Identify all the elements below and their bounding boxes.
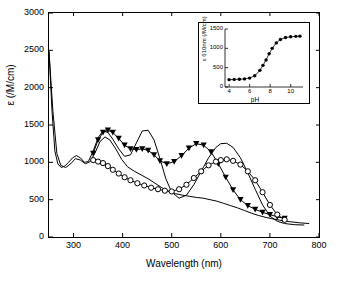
data-point-marker bbox=[282, 217, 287, 222]
series-line bbox=[93, 130, 284, 218]
inset-x-tick-label: 6 bbox=[244, 88, 256, 94]
data-point-marker bbox=[164, 161, 170, 167]
data-point-marker bbox=[95, 159, 100, 164]
data-point-marker bbox=[245, 203, 251, 209]
data-point-marker bbox=[253, 178, 258, 183]
inset-data-point-marker bbox=[294, 35, 297, 38]
data-point-marker bbox=[105, 163, 110, 168]
data-point-marker bbox=[162, 188, 167, 193]
inset-data-point-marker bbox=[284, 36, 287, 39]
inset-data-point-marker bbox=[253, 74, 256, 77]
data-point-marker bbox=[122, 143, 128, 149]
data-point-marker bbox=[122, 175, 127, 180]
y-tick-label: 2000 bbox=[0, 82, 44, 92]
inset-y-tick-label: 500 bbox=[205, 64, 223, 70]
data-point-marker bbox=[267, 202, 272, 207]
x-tick-label: 400 bbox=[109, 240, 137, 250]
inset-x-tick-label: 4 bbox=[223, 88, 235, 94]
data-point-marker bbox=[218, 157, 223, 162]
data-point-marker bbox=[206, 163, 211, 168]
data-point-marker bbox=[224, 157, 229, 162]
inset-series-line bbox=[229, 36, 300, 80]
data-point-marker bbox=[223, 175, 229, 181]
data-point-marker bbox=[191, 175, 196, 180]
inset-y-tick-label: 0 bbox=[205, 83, 223, 89]
inset-x-tick-label: 8 bbox=[264, 88, 276, 94]
y-tick-label: 0 bbox=[0, 231, 44, 241]
inset-data-point-marker bbox=[271, 47, 274, 50]
y-axis-label: ε (/M/cm) bbox=[5, 90, 16, 106]
inset-data-point-marker bbox=[275, 41, 278, 44]
inset-x-tick-label: 10 bbox=[285, 88, 297, 94]
inset-y-tick-label: 1500 bbox=[205, 25, 223, 31]
chart-figure: ε (/M/cm) Wavelength (nm) 05001000150020… bbox=[0, 0, 359, 299]
inset-data-point-marker bbox=[243, 77, 246, 80]
inset-data-point-marker bbox=[289, 35, 292, 38]
data-point-marker bbox=[213, 159, 218, 164]
inset-data-point-marker bbox=[261, 64, 264, 67]
inset-y-tick-label: 1000 bbox=[205, 44, 223, 50]
inset-data-point-marker bbox=[258, 69, 261, 72]
x-tick-label: 300 bbox=[60, 240, 88, 250]
data-point-marker bbox=[133, 147, 139, 153]
inset-data-point-marker bbox=[279, 38, 282, 41]
data-point-marker bbox=[184, 182, 189, 187]
data-point-marker bbox=[100, 160, 105, 165]
inset-x-axis-label: pH bbox=[199, 96, 311, 103]
data-point-marker bbox=[176, 187, 181, 192]
x-tick-label: 800 bbox=[305, 240, 333, 250]
inset-data-point-marker bbox=[267, 52, 270, 55]
y-tick-label: 1500 bbox=[0, 119, 44, 129]
y-tick-label: 2500 bbox=[0, 44, 44, 54]
inset-data-point-marker bbox=[238, 78, 241, 81]
inset-data-point-marker bbox=[248, 76, 251, 79]
data-point-marker bbox=[169, 189, 174, 194]
x-tick-label: 500 bbox=[158, 240, 186, 250]
x-tick-label: 700 bbox=[256, 240, 284, 250]
y-tick-label: 1000 bbox=[0, 156, 44, 166]
data-point-marker bbox=[157, 158, 163, 164]
inset-data-point-marker bbox=[227, 78, 230, 81]
x-tick-label: 600 bbox=[207, 240, 235, 250]
data-point-marker bbox=[230, 158, 235, 163]
y-tick-label: 3000 bbox=[0, 7, 44, 17]
data-point-marker bbox=[199, 169, 204, 174]
data-point-marker bbox=[135, 181, 140, 186]
inset-plot: ε 610nm (/M/cm) pH 050010001500 46810 bbox=[198, 22, 310, 104]
data-point-marker bbox=[128, 178, 133, 183]
data-point-marker bbox=[260, 190, 265, 195]
data-point-marker bbox=[142, 183, 147, 188]
x-axis-label: Wavelength (nm) bbox=[48, 258, 320, 269]
data-point-marker bbox=[91, 157, 96, 162]
data-point-marker bbox=[252, 207, 258, 213]
data-point-marker bbox=[275, 212, 280, 217]
data-point-marker bbox=[245, 169, 250, 174]
data-point-marker bbox=[110, 167, 115, 172]
data-point-marker bbox=[238, 162, 243, 167]
data-point-marker bbox=[116, 171, 121, 176]
data-point-marker bbox=[155, 187, 160, 192]
inset-data-point-marker bbox=[233, 78, 236, 81]
inset-data-point-marker bbox=[264, 58, 267, 61]
inset-data-point-marker bbox=[298, 34, 301, 37]
data-point-marker bbox=[149, 185, 154, 190]
y-tick-label: 500 bbox=[0, 194, 44, 204]
